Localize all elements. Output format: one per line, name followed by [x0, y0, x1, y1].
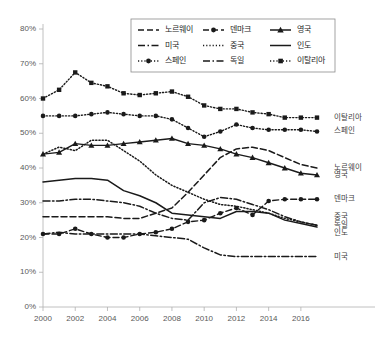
y-tick-label: 50% [20, 128, 36, 137]
series-marker [186, 95, 190, 99]
end-label-4: 영국 [334, 169, 348, 179]
series-marker [170, 117, 175, 122]
y-tick-label: 10% [20, 267, 36, 276]
end-label-9: 미국 [334, 252, 348, 261]
series-marker [250, 213, 255, 218]
x-tick-label: 2004 [99, 314, 117, 323]
series-marker [299, 115, 303, 119]
series-marker [73, 70, 77, 74]
series-marker [105, 235, 110, 240]
series-marker [234, 122, 239, 127]
x-tick-label: 2012 [228, 314, 246, 323]
series-marker [57, 114, 62, 119]
y-tick-label: 20% [20, 233, 36, 242]
y-tick-label: 60% [20, 94, 36, 103]
series-marker [105, 84, 109, 88]
series-marker [154, 91, 158, 95]
series-marker [137, 114, 142, 119]
series-marker [218, 129, 223, 134]
x-tick-label: 2002 [66, 314, 84, 323]
end-label-5: 덴마크 [334, 194, 355, 203]
x-tick-label: 2006 [131, 314, 149, 323]
series-marker [202, 218, 207, 223]
series-marker [121, 235, 126, 240]
series-marker [299, 197, 304, 202]
series-marker [315, 197, 320, 202]
end-label-1: 이탈리아 [334, 112, 362, 122]
end-label-2: 스페인 [334, 125, 355, 135]
series-marker [170, 89, 174, 93]
chart-container: 0%10%20%30%40%50%60%70%80% 2000200220042… [0, 0, 377, 344]
x-tick-label: 2010 [195, 314, 213, 323]
series-marker [89, 112, 94, 117]
series-marker [41, 114, 46, 119]
series-marker [202, 103, 206, 107]
legend-label: 중국 [230, 41, 244, 50]
chart-legend: 노르웨이덴마크영국미국중국인도스페인독일이탈리아 [131, 19, 335, 72]
y-tick-label: 0% [24, 302, 36, 311]
legend-label: 영국 [297, 24, 311, 34]
series-marker [218, 107, 222, 111]
series-marker [121, 91, 125, 95]
y-tick-label: 30% [20, 198, 36, 207]
series-marker [266, 112, 270, 116]
x-tick-label: 2016 [292, 314, 310, 323]
series-marker [202, 134, 207, 139]
series-marker [315, 115, 319, 119]
series-marker [218, 211, 223, 216]
series-marker [57, 88, 61, 92]
series-marker [73, 114, 78, 119]
end-label-8: 인도 [334, 227, 348, 237]
legend-label: 이탈리아 [297, 55, 326, 65]
x-tick-label: 2000 [34, 314, 52, 323]
x-tick-label: 2014 [260, 314, 278, 323]
series-marker [73, 227, 78, 232]
legend-label: 덴마크 [230, 25, 251, 34]
series-marker [154, 114, 159, 119]
legend-marker-circle [146, 59, 151, 64]
series-marker [299, 127, 304, 132]
series-marker [282, 197, 287, 202]
series-marker [282, 127, 287, 132]
series-marker [315, 129, 320, 134]
series-marker [121, 112, 126, 117]
line-chart: 0%10%20%30%40%50%60%70%80% 2000200220042… [0, 0, 377, 344]
legend-label: 미국 [165, 41, 179, 50]
series-marker [283, 115, 287, 119]
series-marker [266, 127, 271, 132]
series-marker [234, 107, 238, 111]
series-marker [89, 81, 93, 85]
series-marker [170, 227, 175, 232]
series-marker [186, 126, 191, 131]
series-marker [250, 110, 254, 114]
x-tick-label: 2008 [163, 314, 181, 323]
legend-label: 인도 [297, 40, 311, 50]
legend-marker-square [278, 59, 283, 64]
legend-label: 독일 [230, 56, 244, 65]
series-marker [138, 93, 142, 97]
series-marker [105, 110, 110, 115]
series-marker [154, 230, 159, 235]
legend-marker-circle [211, 28, 216, 33]
series-marker [41, 96, 45, 100]
y-tick-label: 70% [20, 59, 36, 68]
y-tick-label: 40% [20, 163, 36, 172]
series-marker [266, 199, 271, 204]
series-marker [250, 126, 255, 131]
legend-label: 노르웨이 [165, 24, 193, 34]
y-tick-label: 80% [20, 24, 36, 33]
legend-label: 스페인 [165, 55, 186, 65]
